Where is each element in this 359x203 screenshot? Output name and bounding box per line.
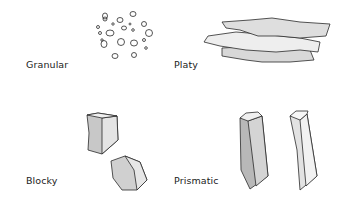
structure-illustrations — [0, 0, 359, 203]
platy-illustration — [204, 18, 330, 62]
granular-illustration — [97, 12, 153, 59]
prismatic-illustration — [240, 111, 317, 190]
blocky-illustration — [87, 113, 147, 190]
